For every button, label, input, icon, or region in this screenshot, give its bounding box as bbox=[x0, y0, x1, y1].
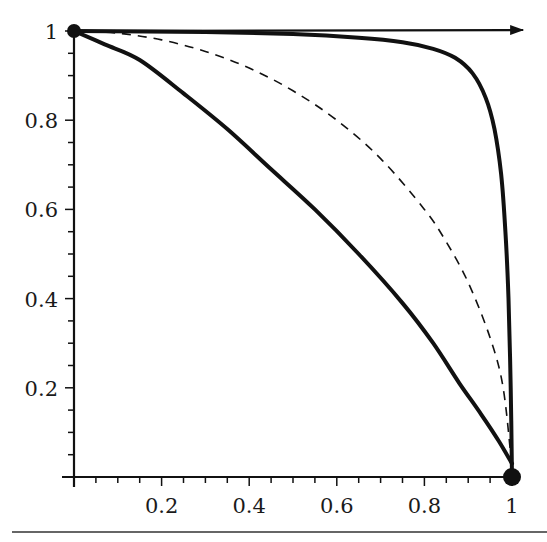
tick-labels: 0.20.40.60.810.20.40.60.81 bbox=[25, 20, 519, 518]
top-arrow bbox=[74, 30, 523, 31]
dashed-curve bbox=[74, 31, 512, 468]
end-point-marker bbox=[503, 468, 521, 486]
y-tick-label: 0.2 bbox=[25, 377, 58, 401]
start-point-marker bbox=[67, 24, 81, 38]
axes bbox=[62, 25, 518, 487]
series bbox=[74, 31, 512, 477]
x-tick-label: 1 bbox=[505, 494, 518, 518]
y-tick-label: 0.6 bbox=[25, 198, 58, 222]
y-tick-label: 0.4 bbox=[25, 288, 58, 312]
x-tick-label: 0.8 bbox=[408, 494, 441, 518]
y-tick-label: 1 bbox=[45, 20, 58, 44]
x-tick-label: 0.6 bbox=[320, 494, 353, 518]
ticks bbox=[65, 31, 512, 486]
y-tick-label: 0.8 bbox=[25, 109, 58, 133]
top-arrow-line bbox=[74, 30, 523, 31]
upper-solid-curve bbox=[74, 31, 512, 477]
markers bbox=[67, 24, 521, 486]
x-tick-label: 0.4 bbox=[232, 494, 265, 518]
x-tick-label: 0.2 bbox=[145, 494, 178, 518]
lower-solid-curve bbox=[74, 31, 512, 464]
chart: 0.20.40.60.810.20.40.60.81 bbox=[0, 0, 547, 542]
